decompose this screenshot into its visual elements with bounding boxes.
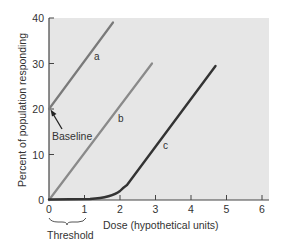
y-tick-label: 20 (32, 103, 44, 115)
series-b-label: b (118, 113, 124, 124)
series-a-label: a (94, 51, 100, 62)
series-c-label: c (163, 140, 168, 151)
x-tick-label: 6 (259, 203, 265, 215)
x-tick-label: 3 (153, 203, 159, 215)
threshold-brace (49, 218, 86, 225)
y-tick-label: 40 (32, 12, 44, 24)
threshold-annotation: Threshold (47, 229, 94, 241)
x-tick-label: 4 (188, 203, 194, 215)
x-tick-label: 5 (224, 203, 230, 215)
x-axis-title: Dose (hypothetical units) (103, 219, 219, 231)
y-tick-label: 0 (38, 194, 44, 206)
x-tick-label: 2 (117, 203, 123, 215)
y-tick-label: 10 (32, 149, 44, 161)
dose-response-chart: 40 30 20 10 0 0 1 2 3 4 5 6 a b c Baseli… (0, 0, 284, 249)
y-axis-title: Percent of population responding (16, 33, 28, 187)
plot-area (49, 18, 269, 200)
baseline-annotation: Baseline (52, 130, 92, 142)
y-tick-label: 30 (32, 58, 44, 70)
x-tick-label: 0 (46, 203, 52, 215)
x-tick-label: 1 (82, 203, 88, 215)
